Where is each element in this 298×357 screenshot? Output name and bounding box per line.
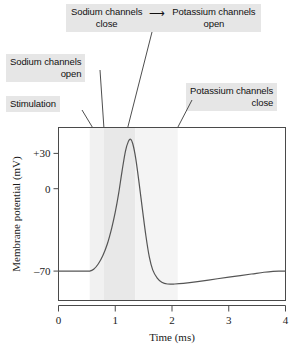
shaded-regions xyxy=(90,128,178,301)
x-tick-label: 3 xyxy=(226,314,232,326)
sodium-close-leader xyxy=(128,32,152,128)
stimulation-leader xyxy=(82,110,93,128)
x-tick-label: 4 xyxy=(283,314,289,326)
y-tick-label: –70 xyxy=(33,265,51,277)
sodium-open-leader xyxy=(100,70,104,128)
x-tick-label: 2 xyxy=(169,314,175,326)
sodium-permeability-band xyxy=(90,128,104,301)
action-potential-figure: Sodium channels close ⟶ Potassium channe… xyxy=(0,0,298,357)
y-axis-title: Membrane potential (mV) xyxy=(10,156,23,272)
y-tick-label: 0 xyxy=(45,183,51,195)
peak-permeability-band xyxy=(104,128,135,301)
potassium-permeability-band xyxy=(135,128,178,301)
potassium-close-leader xyxy=(178,100,192,128)
x-axis-title: Time (ms) xyxy=(149,331,195,344)
action-potential-plot: +300–70 01234 Time (ms) Membrane potenti… xyxy=(0,0,298,357)
leader-lines xyxy=(82,32,192,128)
x-tick-label: 1 xyxy=(113,314,119,326)
x-tick-label: 0 xyxy=(56,314,62,326)
y-tick-label: +30 xyxy=(33,147,51,159)
x-axis-ticks: 01234 xyxy=(56,306,289,327)
y-axis-ticks: +300–70 xyxy=(33,147,59,277)
